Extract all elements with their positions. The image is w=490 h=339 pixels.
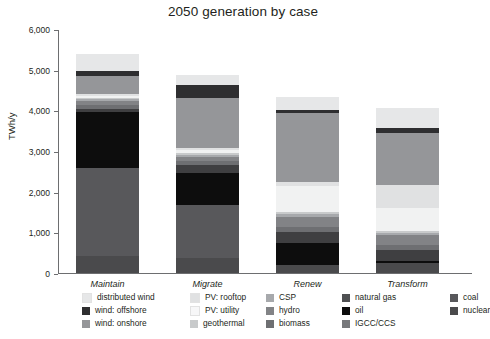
bar-segment-nuclear[interactable] — [376, 263, 439, 273]
bar-segment-nuclear[interactable] — [276, 265, 339, 273]
bar-segment-pv-rooftop[interactable] — [376, 185, 439, 208]
y-tick-mark — [54, 111, 58, 112]
legend-label: natural gas — [355, 293, 396, 302]
bar-segment-oil[interactable] — [76, 112, 139, 168]
legend-swatch-icon — [190, 320, 198, 328]
y-axis-title: TWh/y — [6, 113, 17, 140]
bar-migrate[interactable] — [176, 75, 239, 273]
legend-label: hydro — [279, 306, 300, 315]
bar-segment-distributed-wind[interactable] — [76, 54, 139, 71]
bar-maintain[interactable] — [76, 54, 139, 273]
bar-segment-wind-offshore[interactable] — [176, 85, 239, 98]
x-label-migrate: Migrate — [176, 279, 239, 289]
legend-swatch-icon — [82, 307, 90, 315]
bar-segment-coal[interactable] — [176, 205, 239, 258]
y-axis-line — [58, 30, 59, 274]
bar-segment-hydro[interactable] — [276, 217, 339, 227]
legend-swatch-icon — [190, 293, 200, 303]
legend-label: wind: offshore — [95, 306, 147, 315]
legend-label: biomass — [279, 319, 310, 328]
legend-item-biomass[interactable]: biomass — [266, 318, 310, 330]
y-tick-label: 2,000 — [29, 188, 50, 198]
bar-segment-natural-gas[interactable] — [276, 232, 339, 243]
bar-stack — [376, 108, 439, 273]
legend-swatch-icon — [342, 320, 350, 328]
legend-item-igcc-ccs[interactable]: IGCC/CCS — [342, 318, 396, 330]
legend-column: distributed windwind: offshorewind: onsh… — [82, 292, 155, 331]
bar-segment-oil[interactable] — [176, 173, 239, 204]
plot-area: 01,0002,0003,0004,0005,0006,000 Maintain… — [58, 30, 472, 274]
bar-segment-distributed-wind[interactable] — [376, 108, 439, 128]
legend-swatch-icon — [190, 306, 200, 316]
legend-item-pv-utility[interactable]: PV: utility — [190, 305, 246, 317]
bar-segment-natural-gas[interactable] — [376, 250, 439, 261]
legend-item-oil[interactable]: oil — [342, 305, 396, 317]
legend-swatch-icon — [342, 294, 350, 302]
x-label-maintain: Maintain — [76, 279, 139, 289]
bar-segment-wind-onshore[interactable] — [76, 76, 139, 94]
bar-segment-pv-utility[interactable] — [376, 208, 439, 231]
bar-stack — [276, 97, 339, 273]
bar-segment-natural-gas[interactable] — [176, 165, 239, 173]
legend-item-hydro[interactable]: hydro — [266, 305, 310, 317]
y-tick-mark — [54, 30, 58, 31]
legend-swatch-icon — [266, 307, 274, 315]
legend-label: distributed wind — [97, 293, 155, 302]
x-axis-line — [58, 273, 472, 274]
legend-label: IGCC/CCS — [355, 319, 396, 328]
bar-segment-nuclear[interactable] — [176, 258, 239, 273]
y-tick-label: 6,000 — [29, 25, 50, 35]
legend-swatch-icon — [266, 320, 274, 328]
y-tick-mark — [54, 152, 58, 153]
bar-segment-pv-utility[interactable] — [276, 186, 339, 211]
bar-transform[interactable] — [376, 108, 439, 273]
bar-renew[interactable] — [276, 97, 339, 273]
legend-column: CSPhydrobiomass — [266, 292, 310, 331]
bar-segment-oil[interactable] — [276, 243, 339, 265]
legend-item-wind-offshore[interactable]: wind: offshore — [82, 305, 155, 317]
y-tick-mark — [54, 71, 58, 72]
legend-swatch-icon — [82, 320, 90, 328]
legend-item-pv-rooftop[interactable]: PV: rooftop — [190, 292, 246, 304]
bar-segment-wind-onshore[interactable] — [176, 98, 239, 147]
legend-column: coalnuclear — [450, 292, 490, 318]
legend-label: CSP — [279, 293, 296, 302]
bar-stack — [176, 75, 239, 273]
legend-label: wind: onshore — [95, 319, 147, 328]
y-tick-mark — [54, 274, 58, 275]
chart-legend: distributed windwind: offshorewind: onsh… — [82, 292, 482, 334]
y-tick-label: 0 — [45, 269, 50, 279]
legend-swatch-icon — [82, 293, 92, 303]
legend-item-natural-gas[interactable]: natural gas — [342, 292, 396, 304]
legend-item-wind-onshore[interactable]: wind: onshore — [82, 318, 155, 330]
legend-label: coal — [463, 293, 478, 302]
legend-swatch-icon — [266, 294, 274, 302]
legend-label: geothermal — [203, 319, 245, 328]
legend-item-csp[interactable]: CSP — [266, 292, 310, 304]
bar-segment-wind-onshore[interactable] — [376, 133, 439, 185]
legend-label: PV: rooftop — [205, 293, 246, 302]
y-tick-label: 1,000 — [29, 228, 50, 238]
bar-segment-nuclear[interactable] — [76, 256, 139, 273]
legend-item-nuclear[interactable]: nuclear — [450, 305, 490, 317]
legend-item-distributed-wind[interactable]: distributed wind — [82, 292, 155, 304]
legend-label: PV: utility — [205, 306, 239, 315]
bar-segment-wind-onshore[interactable] — [276, 113, 339, 182]
bar-segment-coal[interactable] — [76, 168, 139, 256]
y-tick-label: 5,000 — [29, 66, 50, 76]
legend-swatch-icon — [450, 294, 458, 302]
chart-title: 2050 generation by case — [0, 4, 486, 19]
y-tick-label: 4,000 — [29, 106, 50, 116]
legend-item-coal[interactable]: coal — [450, 292, 490, 304]
legend-column: natural gasoilIGCC/CCS — [342, 292, 396, 331]
y-tick-label: 3,000 — [29, 147, 50, 157]
bar-segment-distributed-wind[interactable] — [276, 97, 339, 110]
bar-stack — [76, 54, 139, 273]
legend-swatch-icon — [450, 307, 458, 315]
legend-swatch-icon — [342, 307, 350, 315]
bar-segment-hydro[interactable] — [376, 235, 439, 245]
legend-item-geothermal[interactable]: geothermal — [190, 318, 246, 330]
bar-segment-distributed-wind[interactable] — [176, 75, 239, 85]
legend-label: nuclear — [463, 306, 490, 315]
